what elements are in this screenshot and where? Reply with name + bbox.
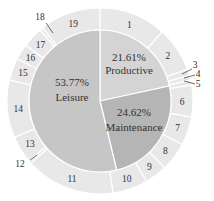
outer-label-16: 16 xyxy=(26,53,36,63)
outer-label-18: 18 xyxy=(35,12,45,22)
outer-label-13: 13 xyxy=(25,139,35,149)
outer-label-6: 6 xyxy=(180,97,185,107)
slice-percent-leisure: 53.77% xyxy=(55,76,89,88)
slice-percent-productive: 21.61% xyxy=(112,51,146,63)
slice-label-productive: Productive xyxy=(105,64,153,76)
outer-label-15: 15 xyxy=(18,68,28,78)
outer-label-5: 5 xyxy=(196,79,201,89)
slice-percent-maintenance: 24.62% xyxy=(117,106,151,118)
outer-label-9: 9 xyxy=(147,162,152,172)
outer-label-7: 7 xyxy=(175,123,180,133)
nested-pie-chart: 21.61%Productive24.62%Maintenance53.77%L… xyxy=(0,0,214,201)
outer-label-2: 2 xyxy=(166,51,171,61)
outer-label-4: 4 xyxy=(196,69,201,79)
outer-label-10: 10 xyxy=(122,174,132,184)
outer-label-8: 8 xyxy=(163,146,168,156)
outer-label-1: 1 xyxy=(127,20,132,30)
outer-label-14: 14 xyxy=(14,104,24,114)
slice-label-leisure: Leisure xyxy=(56,91,89,103)
outer-label-19: 19 xyxy=(69,19,79,29)
outer-label-17: 17 xyxy=(36,40,46,50)
outer-label-11: 11 xyxy=(67,174,76,184)
outer-label-12: 12 xyxy=(15,159,25,169)
slice-label-maintenance: Maintenance xyxy=(106,121,163,133)
inner-pie xyxy=(29,30,171,172)
